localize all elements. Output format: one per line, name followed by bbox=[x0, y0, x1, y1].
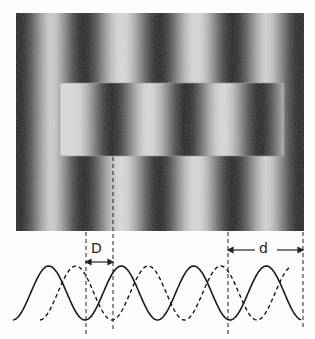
shift-arrow-D bbox=[86, 260, 113, 265]
shift-label-D: D bbox=[91, 241, 102, 255]
fringe-photograph bbox=[16, 13, 304, 231]
figure-canvas bbox=[0, 0, 315, 339]
shifted-intensity-curve bbox=[40, 266, 291, 320]
period-label-d: d bbox=[259, 241, 268, 255]
shifted-fringe-pattern bbox=[60, 83, 284, 156]
interference-figure: D d bbox=[0, 0, 315, 339]
